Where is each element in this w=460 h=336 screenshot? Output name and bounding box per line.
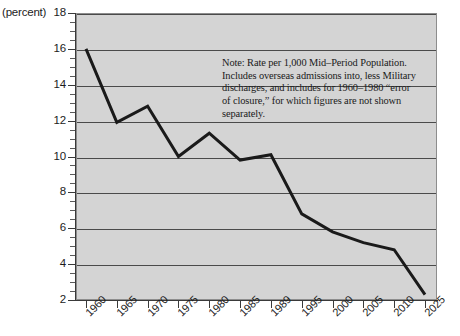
y-tick-label-8: 8: [60, 185, 66, 197]
gridline-y-18: [77, 14, 436, 15]
y-tick-minor-3: [70, 282, 75, 283]
y-tick-label-4: 4: [60, 257, 66, 269]
y-tick-minor-11.5: [70, 130, 75, 131]
y-tick-minor-8.5: [70, 183, 75, 184]
y-tick-minor-5.5: [70, 237, 75, 238]
y-tick-minor-14.5: [70, 76, 75, 77]
y-tick-minor-7: [70, 210, 75, 211]
y-tick-minor-16.5: [70, 40, 75, 41]
chart-note: Note: Rate per 1,000 Mid–Period Populati…: [222, 57, 418, 120]
y-tick-8: [68, 192, 75, 193]
y-tick-minor-4.5: [70, 255, 75, 256]
y-tick-minor-6.5: [70, 219, 75, 220]
y-tick-minor-7.5: [70, 201, 75, 202]
y-tick-minor-5: [70, 246, 75, 247]
y-tick-6: [68, 228, 75, 229]
gridline-y-16: [77, 50, 436, 51]
y-tick-12: [68, 121, 75, 122]
gridline-y-6: [77, 229, 436, 230]
y-tick-16: [68, 49, 75, 50]
gridline-y-12: [77, 122, 436, 123]
gridline-y-10: [77, 158, 436, 159]
y-tick-minor-17.5: [70, 22, 75, 23]
y-tick-minor-9: [70, 174, 75, 175]
y-tick-label-14: 14: [54, 78, 66, 90]
y-tick-minor-15.5: [70, 58, 75, 59]
y-tick-2: [68, 300, 75, 301]
y-tick-minor-13: [70, 103, 75, 104]
chart-container: (percent) 18161412108642 196019651970197…: [0, 0, 460, 336]
y-tick-14: [68, 85, 75, 86]
y-tick-minor-11: [70, 139, 75, 140]
y-tick-4: [68, 264, 75, 265]
y-tick-label-10: 10: [54, 150, 66, 162]
y-tick-minor-9.5: [70, 165, 75, 166]
gridline-y-4: [77, 265, 436, 266]
y-tick-minor-15: [70, 67, 75, 68]
y-tick-10: [68, 157, 75, 158]
y-axis-line: [75, 13, 76, 301]
y-tick-label-2: 2: [60, 293, 66, 305]
y-tick-label-6: 6: [60, 221, 66, 233]
y-tick-label-12: 12: [54, 114, 66, 126]
y-axis-unit-label: (percent): [2, 6, 46, 18]
y-tick-minor-17: [70, 31, 75, 32]
y-tick-minor-10.5: [70, 148, 75, 149]
y-tick-minor-12.5: [70, 112, 75, 113]
y-tick-label-18: 18: [54, 6, 66, 18]
y-tick-minor-13.5: [70, 94, 75, 95]
y-tick-minor-3.5: [70, 273, 75, 274]
y-tick-label-16: 16: [54, 42, 66, 54]
gridline-y-8: [77, 193, 436, 194]
y-tick-minor-2.5: [70, 291, 75, 292]
y-tick-18: [68, 13, 75, 14]
